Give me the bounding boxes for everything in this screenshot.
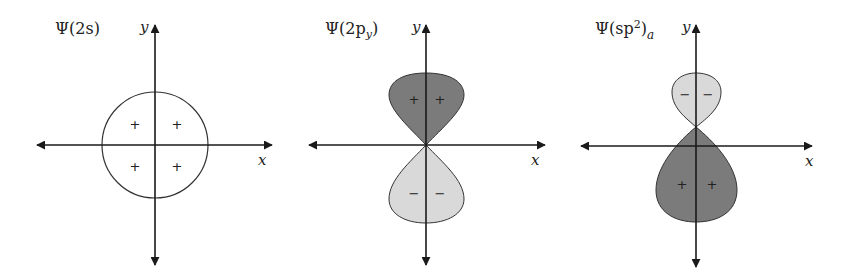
y-axis-label: y (411, 18, 421, 36)
diagram-title: Ψ(sp2)a (595, 18, 654, 42)
x-axis-label: x (805, 152, 814, 170)
x-axis-label: x (531, 151, 540, 169)
sign-plus: + (130, 159, 141, 174)
diagram-2py: + + − − Ψ(2py) y x (309, 18, 545, 265)
diagram-sp2: − − + + Ψ(sp2)a y x (581, 18, 814, 267)
sign-plus: + (130, 117, 141, 132)
sign-minus: − (680, 87, 691, 102)
title-main: Ψ(sp (595, 19, 634, 38)
sign-minus: − (703, 87, 714, 102)
diagram-title: Ψ(2s) (55, 19, 100, 38)
sign-plus: + (435, 92, 446, 107)
y-axis-label: y (139, 18, 149, 36)
y-axis-label: y (681, 18, 691, 36)
sign-plus: + (707, 177, 718, 192)
sign-plus: + (677, 177, 688, 192)
sign-plus: + (172, 159, 183, 174)
title-subscript: a (647, 28, 654, 42)
orbital-diagrams: + + + + Ψ(2s) y x + + − − Ψ(2py) y x − −… (0, 0, 851, 276)
diagram-title: Ψ(2py) (325, 19, 378, 41)
sign-plus: + (409, 92, 420, 107)
sign-minus: − (435, 186, 446, 201)
title-superscript: 2 (634, 18, 641, 31)
sign-minus: − (409, 186, 420, 201)
title-close: ) (372, 19, 378, 38)
sign-plus: + (172, 117, 183, 132)
x-axis-label: x (258, 151, 267, 169)
title-main: Ψ(2p (325, 19, 366, 38)
diagram-2s: + + + + Ψ(2s) y x (37, 18, 272, 265)
